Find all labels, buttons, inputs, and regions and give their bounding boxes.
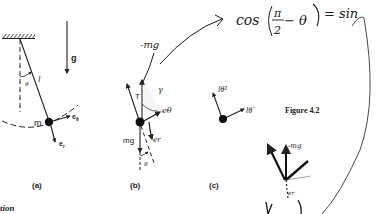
ceiling-support <box>2 34 35 38</box>
equation-pointer-arrow <box>160 19 222 64</box>
gravity-label: g <box>71 53 77 63</box>
handwritten-gamma: γ <box>158 85 163 94</box>
e-r-label: er <box>59 140 65 149</box>
mass-c <box>219 115 227 123</box>
equation-close-paren <box>313 4 319 26</box>
centripetal-arrow <box>213 93 222 118</box>
equation-cos: cos <box>236 12 259 28</box>
sketch-curve <box>298 200 301 214</box>
tension-arrow <box>127 84 139 120</box>
sketch-mark <box>266 202 272 214</box>
equation-minus-theta: − θ <box>284 13 307 28</box>
e-theta-arrow <box>53 116 70 121</box>
sketch-stroke-1 <box>268 145 285 180</box>
panel-b: T mg θ (b) -mg γ eθ er <box>123 39 172 190</box>
figure-canvas: θ l g m eθ er (a) tion T mg θ (b) -mg γ … <box>0 0 376 214</box>
centripetal-label: lθ̇² <box>218 85 227 94</box>
mass-label: m <box>34 118 42 128</box>
figure-caption: Figure 4.2 <box>285 106 320 115</box>
panel-c: lθ̇² lθ̈ (c) <box>209 85 255 190</box>
tangential-arrow <box>225 109 244 118</box>
panel-c-label: (c) <box>209 181 219 190</box>
handwritten-pointer <box>143 53 154 82</box>
handwritten-sketch: -mg er <box>266 17 370 214</box>
sketch-label-top: -mg <box>288 142 302 150</box>
panel-a: θ l g m eθ er (a) <box>2 21 79 190</box>
pendulum-mass <box>45 118 53 126</box>
handwritten-equation: cos π 2 − θ = sin <box>160 4 358 64</box>
equation-pi: π <box>273 7 282 20</box>
angle-arc <box>20 72 31 77</box>
sketch-label-bottom: er <box>288 189 296 196</box>
panel-a-label: (a) <box>32 181 42 190</box>
handwritten-neg-mg: -mg <box>140 39 159 50</box>
e-theta-label: eθ <box>72 113 79 122</box>
panel-b-label: (b) <box>130 181 141 190</box>
equation-open-paren <box>269 6 273 36</box>
angle-label-b: θ <box>144 160 148 168</box>
section-heading-fragment: tion <box>0 203 15 213</box>
weight-label: mg <box>123 136 134 145</box>
length-label: l <box>38 74 41 84</box>
e-r-arrow <box>51 126 55 142</box>
handwritten-e-theta: eθ <box>162 106 172 115</box>
tangential-label: lθ̈ <box>246 106 255 115</box>
tension-label: T <box>135 92 140 101</box>
equation-sin: = sin <box>324 6 358 21</box>
sketch-connector-arc <box>322 18 370 214</box>
handwritten-e-r-arrow <box>149 122 152 139</box>
handwritten-e-r: er <box>153 136 161 144</box>
equation-two: 2 <box>273 24 281 37</box>
angle-arc-b <box>140 152 148 156</box>
angle-label: θ <box>25 80 29 88</box>
